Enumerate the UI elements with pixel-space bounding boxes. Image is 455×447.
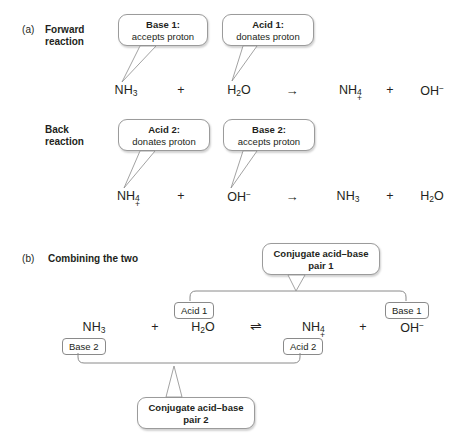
panel-b-letter: (b) bbox=[22, 253, 35, 264]
callout-base-2: Base 2: accepts proton bbox=[223, 119, 315, 151]
combined-product-2: OH− bbox=[400, 320, 424, 335]
back-plus-1: + bbox=[177, 189, 184, 203]
tag-acid-1: Acid 1 bbox=[174, 302, 214, 319]
callout-conjugate-pair-2-line2: pair 2 bbox=[145, 414, 247, 426]
back-reactant-2: OH− bbox=[227, 189, 251, 204]
callout-acid-1-subtitle: donates proton bbox=[230, 31, 306, 43]
callout-base-1: Base 1: accepts proton bbox=[118, 14, 208, 46]
pointer-acid-1 bbox=[232, 46, 257, 81]
tag-base-1: Base 1 bbox=[385, 302, 429, 319]
pointer-conjugate-pair-1 bbox=[288, 275, 305, 291]
callout-conjugate-pair-1-line2: pair 1 bbox=[270, 260, 372, 272]
back-reaction-title-line1: Back bbox=[45, 124, 69, 135]
back-product-2: H2O bbox=[420, 189, 444, 204]
combined-plus-1: + bbox=[151, 320, 158, 334]
bracket-pair-1 bbox=[190, 291, 406, 301]
combined-product-1: NH4+ bbox=[302, 320, 320, 334]
callout-base-2-subtitle: accepts proton bbox=[231, 136, 307, 148]
callout-base-2-title: Base 2: bbox=[231, 124, 307, 136]
back-arrow: → bbox=[286, 189, 299, 204]
back-reactant-1: NH4+ bbox=[117, 189, 135, 203]
back-plus-2: + bbox=[386, 189, 393, 203]
back-equation: NH4+ + OH− → NH3 + H2O bbox=[0, 189, 455, 207]
forward-equation: NH3 + H2O → NH4+ + OH− bbox=[0, 83, 455, 101]
back-reaction-title: Back reaction bbox=[45, 124, 84, 148]
callout-acid-2: Acid 2: donates proton bbox=[118, 119, 210, 151]
back-product-1: NH3 bbox=[337, 189, 360, 204]
forward-arrow: → bbox=[286, 83, 299, 98]
tag-acid-2: Acid 2 bbox=[283, 338, 323, 355]
callout-acid-2-title: Acid 2: bbox=[126, 124, 202, 136]
combined-equation: NH3 + H2O ⇌ NH4+ + OH− bbox=[0, 320, 455, 338]
callout-acid-1: Acid 1: donates proton bbox=[222, 14, 314, 46]
pointer-base-1 bbox=[122, 46, 156, 82]
back-reaction-title-line2: reaction bbox=[45, 136, 84, 147]
panel-a-letter: (a) bbox=[22, 24, 35, 35]
combined-equilibrium-arrow: ⇌ bbox=[250, 318, 262, 334]
callout-acid-2-subtitle: donates proton bbox=[126, 136, 202, 148]
pointer-base-2 bbox=[231, 151, 257, 188]
forward-plus-1: + bbox=[177, 83, 184, 97]
forward-plus-2: + bbox=[386, 83, 393, 97]
pointer-conjugate-pair-2 bbox=[166, 366, 182, 397]
figure-canvas: (a) Forward reaction Base 1: accepts pro… bbox=[0, 0, 455, 447]
forward-product-1: NH4+ bbox=[339, 83, 357, 97]
forward-reactant-2: H2O bbox=[227, 83, 251, 98]
pointer-acid-2 bbox=[124, 151, 155, 188]
forward-reactant-1: NH3 bbox=[115, 83, 138, 98]
callout-conjugate-pair-2: Conjugate acid–base pair 2 bbox=[137, 397, 255, 429]
callout-base-1-subtitle: accepts proton bbox=[126, 31, 200, 43]
combined-reactant-1: NH3 bbox=[83, 320, 106, 335]
forward-product-2: OH− bbox=[420, 83, 444, 98]
panel-b-title: Combining the two bbox=[48, 253, 138, 265]
tag-base-2: Base 2 bbox=[62, 338, 106, 355]
panel-a-title-line2: reaction bbox=[45, 36, 84, 47]
connector-overlay bbox=[0, 0, 455, 447]
panel-a-title-line1: Forward bbox=[45, 24, 84, 35]
callout-base-1-title: Base 1: bbox=[126, 19, 200, 31]
callout-conjugate-pair-1: Conjugate acid–base pair 1 bbox=[262, 243, 380, 275]
panel-a-title: Forward reaction bbox=[45, 24, 84, 48]
combined-plus-2: + bbox=[359, 320, 366, 334]
callout-conjugate-pair-2-line1: Conjugate acid–base bbox=[145, 402, 247, 414]
combined-reactant-2: H2O bbox=[191, 320, 215, 335]
bracket-pair-2 bbox=[78, 353, 300, 363]
callout-conjugate-pair-1-line1: Conjugate acid–base bbox=[270, 248, 372, 260]
callout-acid-1-title: Acid 1: bbox=[230, 19, 306, 31]
